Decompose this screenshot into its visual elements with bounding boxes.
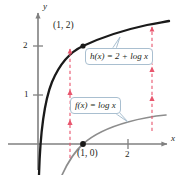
point-marker-1-2: [80, 43, 85, 48]
logarithm-shift-figure: y x 2 1 2 (1, 2) (1, 0) h(x) = 2 + log x…: [0, 0, 182, 175]
shift-arrow-right: [149, 27, 154, 131]
y-axis-label: y: [43, 2, 47, 11]
point-label-1-2: (1, 2): [53, 21, 74, 31]
x-tick-label-2: 2: [125, 150, 130, 159]
point-marker-1-0: [80, 141, 86, 147]
callout-f-equation: f(x) = log x: [70, 97, 121, 114]
y-tick-label-2: 2: [23, 41, 28, 50]
x-axis-label: x: [171, 134, 175, 143]
point-label-1-0: (1, 0): [77, 149, 98, 159]
y-tick-label-1: 1: [24, 90, 29, 99]
callout-h-equation: h(x) = 2 + log x: [85, 48, 153, 65]
curve-f: [62, 115, 166, 175]
